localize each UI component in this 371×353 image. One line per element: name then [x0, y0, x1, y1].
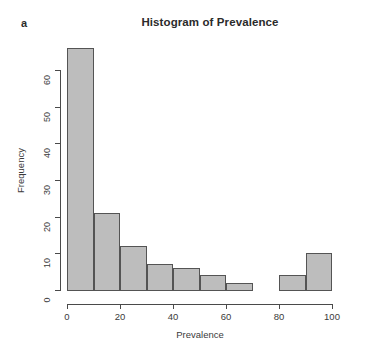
- x-axis-tick-label: 40: [158, 311, 188, 322]
- x-axis-tick: [173, 304, 174, 309]
- y-axis-tick: [55, 253, 60, 254]
- x-axis-tick-label: 100: [317, 311, 347, 322]
- x-axis-tick-label: 80: [264, 311, 294, 322]
- x-axis-tick: [67, 304, 68, 309]
- x-axis-tick: [120, 304, 121, 309]
- histogram-bar: [120, 246, 147, 291]
- x-axis-tick: [332, 304, 333, 309]
- histogram-bar: [306, 253, 333, 291]
- histogram-bar: [226, 283, 253, 291]
- x-axis-tick-label: 60: [211, 311, 241, 322]
- x-axis-tick: [279, 304, 280, 309]
- y-axis-tick-label: 0: [42, 289, 52, 311]
- histogram-bar: [67, 48, 94, 291]
- x-axis-line: [67, 304, 333, 305]
- histogram-figure: a Histogram of Prevalence Frequency Prev…: [0, 0, 371, 353]
- y-axis-tick-label: 60: [42, 69, 52, 91]
- y-axis-tick: [55, 217, 60, 218]
- y-axis-tick: [55, 70, 60, 71]
- y-axis-tick-label: 40: [42, 142, 52, 164]
- plot-area: [0, 0, 371, 353]
- histogram-bar: [279, 275, 306, 291]
- x-axis-tick: [226, 304, 227, 309]
- y-axis-tick-label: 10: [42, 252, 52, 274]
- histogram-bar: [173, 268, 200, 291]
- histogram-bar: [200, 275, 227, 291]
- y-axis-tick: [55, 180, 60, 181]
- x-axis-tick-label: 20: [105, 311, 135, 322]
- histogram-bar: [94, 213, 121, 291]
- histogram-bar: [147, 264, 174, 291]
- y-axis-tick: [55, 143, 60, 144]
- y-axis-title: Frequency: [15, 131, 26, 211]
- x-axis-title: Prevalence: [67, 329, 333, 340]
- y-axis-tick: [55, 290, 60, 291]
- y-axis-tick: [55, 107, 60, 108]
- x-axis-tick-label: 0: [52, 311, 82, 322]
- y-axis-tick-label: 30: [42, 179, 52, 201]
- y-axis-tick-label: 50: [42, 106, 52, 128]
- y-axis-tick-label: 20: [42, 216, 52, 238]
- y-axis-line: [60, 70, 61, 291]
